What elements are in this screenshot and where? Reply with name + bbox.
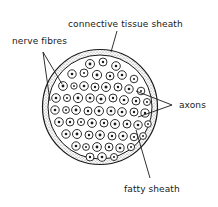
label-axons: axons [179, 100, 206, 110]
nerve-cross-section-diagram: connective tissue sheath nerve fibres ax… [0, 0, 218, 207]
label-connective-tissue-sheath: connective tissue sheath [68, 19, 183, 29]
label-nerve-fibres: nerve fibres [12, 36, 67, 46]
connective-tissue-sheath-leader [111, 31, 117, 52]
label-fatty-sheath: fatty sheath [124, 184, 180, 194]
